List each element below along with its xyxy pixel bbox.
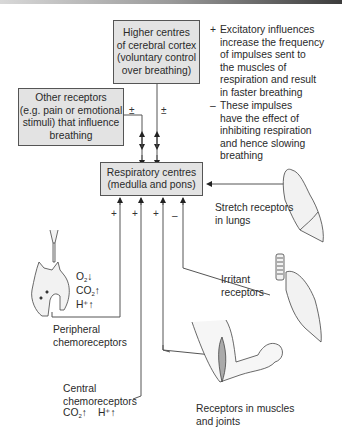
- respiratory-centres-box: Respiratory centres (medulla and pons): [100, 162, 203, 196]
- sign-higher-centres: ±: [161, 106, 167, 116]
- other-receptors-box: Other receptors (e.g. pain or emotional …: [18, 88, 124, 146]
- sign-peripheral: +: [111, 209, 117, 219]
- sign-other-receptors: ±: [129, 106, 135, 116]
- other-receptors-line: [124, 115, 142, 165]
- label-stretch-receptors: Stretch receptors in lungs: [215, 202, 293, 227]
- minus-symbol: –: [210, 100, 216, 113]
- label-central-chemoreceptors: Central chemoreceptors: [63, 383, 137, 408]
- higher-centres-box: Higher centres of cerebral cortex (volun…: [113, 20, 200, 84]
- sign-muscles: +: [153, 209, 159, 219]
- sign-central: +: [132, 209, 138, 219]
- up-arrow-icon: ↑: [95, 285, 100, 296]
- label-muscle-receptors: Receptors in muscles and joints: [196, 403, 294, 428]
- sign-irritant: –: [172, 211, 178, 221]
- down-arrow-icon: ↓: [87, 271, 92, 282]
- up-arrow-icon: ↑: [110, 407, 115, 418]
- label-irritant-receptors: Irritant receptors: [221, 274, 264, 299]
- arm-muscle-icon: [192, 320, 282, 382]
- label-peripheral-chemoreceptors: Peripheral chemoreceptors: [53, 324, 127, 349]
- legend-inhibitory: – These impulses have the effect of inhi…: [210, 100, 312, 163]
- central-co2: CO2↑: [63, 407, 87, 423]
- up-arrow-icon: ↑: [82, 407, 87, 418]
- lung-irritant-icon: [276, 254, 321, 342]
- peripheral-h: H⁺↑: [76, 299, 94, 312]
- central-line: [133, 198, 141, 399]
- up-arrow-icon: ↑: [88, 299, 93, 310]
- central-h: H⁺↑: [98, 407, 116, 420]
- carotid-body-icon: [32, 230, 70, 316]
- legend-excitatory: + Excitatory influences increase the fre…: [210, 24, 324, 99]
- plus-symbol: +: [210, 24, 216, 37]
